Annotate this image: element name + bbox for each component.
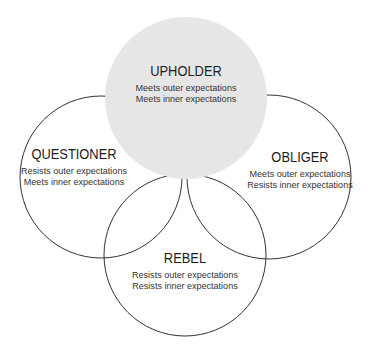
rebel-outer: Resists outer expectations [119,269,252,280]
questioner-label: QUESTIONER Resists outer expectations Me… [4,146,144,187]
questioner-inner: Meets inner expectations [8,176,141,187]
obliger-title: OBLIGER [239,149,360,165]
questioner-title: QUESTIONER [10,146,139,162]
upholder-title: UPHOLDER [112,63,259,79]
rebel-inner: Resists inner expectations [119,280,252,291]
rebel-label: REBEL Resists outer expectations Resists… [115,250,255,291]
upholder-inner: Meets inner expectations [110,93,262,104]
questioner-outer: Resists outer expectations [8,165,141,176]
obliger-inner: Resists inner expectations [237,179,362,190]
rebel-title: REBEL [121,250,250,266]
obliger-outer: Meets outer expectations [237,168,362,179]
upholder-label: UPHOLDER Meets outer expectations Meets … [106,63,266,104]
obliger-label: OBLIGER Meets outer expectations Resists… [234,149,366,190]
upholder-outer: Meets outer expectations [110,82,262,93]
